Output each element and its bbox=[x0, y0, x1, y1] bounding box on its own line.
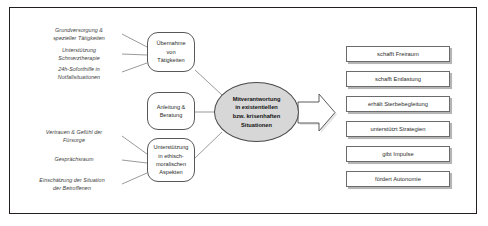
annotation-einschaetzung: Einschätzung der Situation der Betroffen… bbox=[22, 177, 122, 193]
diagram-frame: Grundversorgung & spezieller Tätigkeiten… bbox=[9, 7, 477, 214]
outcome-box-strategien[interactable]: unterstützt Strategien bbox=[346, 121, 450, 137]
process-box-line: von bbox=[156, 48, 185, 56]
connector-ann3-box1 bbox=[122, 63, 147, 72]
annotation-schmerztherapie: Unterstützung Schmerztherapie bbox=[36, 47, 122, 63]
process-box-line: in ethisch- bbox=[154, 152, 189, 160]
process-box-anleitung[interactable]: Anleitung & Beratung bbox=[147, 92, 195, 130]
annotation-line: der Betroffenen bbox=[22, 185, 122, 193]
diagram-canvas: Grundversorgung & spezieller Tätigkeiten… bbox=[10, 8, 476, 213]
process-box-text: Übernahme von Tätigkeiten bbox=[156, 39, 185, 64]
process-box-line: Übernahme bbox=[156, 39, 185, 47]
process-box-unterstuetzung[interactable]: Unterstützung in ethisch- moralischen As… bbox=[147, 138, 195, 182]
annotation-line: Unterstützung bbox=[36, 47, 122, 55]
core-line: bzw. krisenhaften bbox=[233, 112, 281, 121]
annotation-grundversorgung: Grundversorgung & spezieller Tätigkeiten bbox=[36, 27, 122, 43]
connector-ann5-box3 bbox=[122, 160, 147, 163]
annotation-line: Gesprächsraum bbox=[26, 156, 122, 164]
outcome-box-autonomie[interactable]: fördert Autonomie bbox=[346, 171, 450, 187]
process-box-text: Anleitung & Beratung bbox=[157, 103, 186, 120]
annotation-line: Einschätzung der Situation bbox=[22, 177, 122, 185]
process-box-line: Unterstützung bbox=[154, 143, 189, 151]
connector-box1-core bbox=[195, 70, 222, 95]
process-box-line: Tätigkeiten bbox=[156, 56, 185, 64]
process-box-line: moralischen bbox=[154, 160, 189, 168]
connector-ann1-box1 bbox=[122, 34, 147, 47]
core-concept-text: Mitverantwortung in existentiellen bzw. … bbox=[233, 95, 281, 129]
core-line: Mitverantwortung bbox=[233, 95, 281, 104]
process-box-text: Unterstützung in ethisch- moralischen As… bbox=[154, 143, 189, 177]
core-concept-node[interactable]: Mitverantwortung in existentiellen bzw. … bbox=[214, 82, 299, 142]
connector-ann6-box3 bbox=[122, 173, 147, 184]
outcome-box-sterbebegleitung[interactable]: erhält Sterbebegleitung bbox=[346, 96, 450, 112]
process-box-line: Aspekten bbox=[154, 168, 189, 176]
annotation-line: Grundversorgung & bbox=[36, 27, 122, 35]
annotation-line: Vertrauen & Gefühl der bbox=[26, 129, 122, 137]
flow-arrow-shape bbox=[298, 94, 337, 133]
connector-ann4-box3 bbox=[122, 136, 147, 154]
outcome-box-impulse[interactable]: gibt Impulse bbox=[346, 146, 450, 162]
core-line: in existentiellen bbox=[233, 103, 281, 112]
outcome-box-entlastung[interactable]: schafft Entlastung bbox=[346, 71, 450, 87]
annotation-soforthilfe: 24h-Soforthilfe in Notfallsituationen bbox=[36, 66, 122, 82]
annotation-line: Fürsorge bbox=[26, 137, 122, 145]
annotation-line: spezieller Tätigkeiten bbox=[36, 35, 122, 43]
annotation-line: Notfallsituationen bbox=[36, 74, 122, 82]
process-box-uebernahme[interactable]: Übernahme von Tätigkeiten bbox=[147, 32, 195, 72]
annotation-line: 24h-Soforthilfe in bbox=[36, 66, 122, 74]
process-box-line: Beratung bbox=[157, 111, 186, 119]
annotation-gespraechsraum: Gesprächsraum bbox=[26, 156, 122, 164]
annotation-vertrauen: Vertrauen & Gefühl der Fürsorge bbox=[26, 129, 122, 145]
core-line: Situationen bbox=[233, 121, 281, 130]
process-box-line: Anleitung & bbox=[157, 103, 186, 111]
annotation-line: Schmerztherapie bbox=[36, 55, 122, 63]
connector-ann2-box1 bbox=[122, 54, 147, 55]
outcome-box-freiraum[interactable]: schafft Freiraum bbox=[346, 46, 450, 62]
connector-box3-core bbox=[195, 132, 222, 158]
